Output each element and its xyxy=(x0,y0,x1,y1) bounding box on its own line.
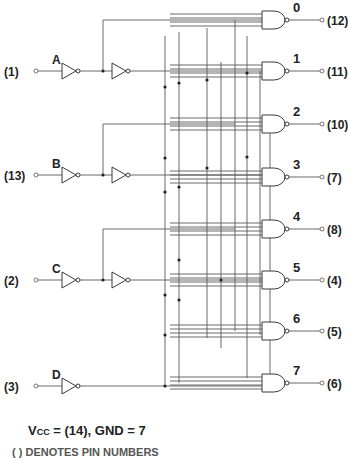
output-pin-terminal xyxy=(320,227,324,231)
nand-gate-icon xyxy=(262,62,285,80)
output-name-label: 5 xyxy=(293,260,300,275)
nand-gate-icon xyxy=(262,11,285,29)
junction-dot xyxy=(245,155,248,158)
output-pin-terminal xyxy=(320,175,324,179)
input-name-label: C xyxy=(52,262,61,276)
inverter-bubble xyxy=(76,384,80,388)
labels: (1)A(13)B(2)C(3)D0(12)1(11)2(10)3(7)4(8)… xyxy=(4,0,348,394)
inverter-bubble xyxy=(126,173,130,177)
input-pin-terminal xyxy=(34,384,38,388)
nand-gate-icon xyxy=(262,168,285,186)
input-pin-label: (3) xyxy=(4,380,19,394)
pin-note: ( ) DENOTES PIN NUMBERS xyxy=(12,446,159,458)
inverter-gate-icon xyxy=(112,167,126,183)
junction-dot xyxy=(163,156,166,159)
output-pin-label: (12) xyxy=(327,14,348,28)
output-name-label: 6 xyxy=(293,311,300,326)
nand-gate-icon xyxy=(262,115,285,133)
nand-gate-icon xyxy=(262,374,285,392)
nand-gate-icon xyxy=(262,220,285,238)
output-pin-label: (5) xyxy=(327,325,342,339)
junction-dot xyxy=(205,78,208,81)
output-name-label: 7 xyxy=(293,363,300,378)
nand-bubble xyxy=(285,329,289,333)
junction-dot xyxy=(177,298,180,301)
junction-dot xyxy=(163,384,166,387)
output-pin-label: (11) xyxy=(327,65,348,79)
nand-bubble xyxy=(285,227,289,231)
output-name-label: 3 xyxy=(293,157,300,172)
output-pin-label: (10) xyxy=(327,118,348,132)
junction-dot xyxy=(163,85,166,88)
inverter-gate-icon xyxy=(62,272,76,288)
output-pin-terminal xyxy=(320,122,324,126)
power-rest: = (14), GND = 7 xyxy=(50,423,146,438)
nand-bubble xyxy=(285,18,289,22)
output-name-label: 2 xyxy=(293,104,300,119)
junction-dot xyxy=(219,278,222,281)
inverter-bubble xyxy=(126,278,130,282)
output-pin-terminal xyxy=(320,278,324,282)
output-pin-terminal xyxy=(320,381,324,385)
junction-dot xyxy=(101,69,104,72)
nand-bubble xyxy=(285,69,289,73)
junction-dot xyxy=(177,258,180,261)
nand-bubble xyxy=(285,122,289,126)
input-pin-label: (13) xyxy=(4,169,25,183)
output-pin-terminal xyxy=(320,69,324,73)
inverter-gate-icon xyxy=(62,63,76,79)
junction-dot xyxy=(163,190,166,193)
inverter-gate-icon xyxy=(62,167,76,183)
junction-dot xyxy=(205,166,208,169)
output-name-label: 0 xyxy=(293,0,300,15)
input-pin-terminal xyxy=(34,69,38,73)
inverter-gate-icon xyxy=(112,272,126,288)
output-name-label: 4 xyxy=(293,209,301,224)
output-pin-terminal xyxy=(320,18,324,22)
inverter-bubble xyxy=(76,69,80,73)
nand-gate-icon xyxy=(262,271,285,289)
inverter-gate-icon xyxy=(62,378,76,394)
input-name-label: A xyxy=(52,53,61,67)
junction-dot xyxy=(245,71,248,74)
junction-dot xyxy=(177,185,180,188)
inverter-bubble xyxy=(126,69,130,73)
input-name-label: D xyxy=(52,368,61,382)
junction-dot xyxy=(163,333,166,336)
junction-dot xyxy=(163,293,166,296)
nand-bubble xyxy=(285,381,289,385)
inverter-bubble xyxy=(76,278,80,282)
nand-gate-icon xyxy=(262,322,285,340)
junction-dot xyxy=(177,81,180,84)
power-v: V xyxy=(28,423,37,438)
inverter-bubble xyxy=(76,173,80,177)
junction-dot xyxy=(101,173,104,176)
nand-bubble xyxy=(285,175,289,179)
power-note: VCC = (14), GND = 7 xyxy=(28,423,146,438)
nand-bubble xyxy=(285,278,289,282)
output-name-label: 1 xyxy=(293,51,300,66)
input-pin-terminal xyxy=(34,278,38,282)
output-pin-label: (6) xyxy=(327,377,342,391)
power-sub: CC xyxy=(37,427,50,437)
input-pin-terminal xyxy=(34,173,38,177)
output-pin-label: (7) xyxy=(327,171,342,185)
junction-dot xyxy=(101,278,104,281)
input-pin-label: (1) xyxy=(4,65,19,79)
output-pin-terminal xyxy=(320,329,324,333)
input-pin-label: (2) xyxy=(4,274,19,288)
input-name-label: B xyxy=(52,157,61,171)
output-pin-label: (8) xyxy=(327,223,342,237)
output-pin-label: (4) xyxy=(327,274,342,288)
inverter-gate-icon xyxy=(112,63,126,79)
